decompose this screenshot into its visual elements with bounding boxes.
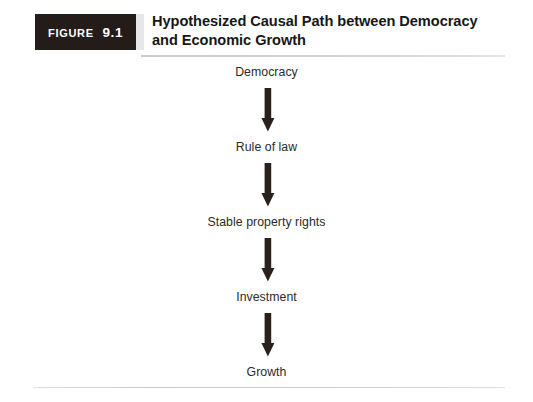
figure-badge-word: FIGURE [48, 27, 94, 39]
figure-title: Hypothesized Causal Path between Democra… [152, 12, 504, 49]
flow-node-label: Rule of law [236, 141, 297, 153]
flow-arrow-2 [0, 157, 533, 212]
header-divider [141, 55, 505, 57]
flow-node-label: Democracy [235, 66, 298, 78]
flow-arrow-1 [0, 82, 533, 137]
down-arrow-icon [259, 238, 277, 282]
down-arrow-icon [259, 88, 277, 132]
badge-separator [136, 14, 144, 50]
flow-node-democracy: Democracy [0, 62, 533, 82]
footer-divider [33, 387, 505, 388]
figure-page: FIGURE 9.1 Hypothesized Causal Path betw… [0, 0, 533, 402]
flow-node-investment: Investment [0, 287, 533, 307]
flow-node-rule-of-law: Rule of law [0, 137, 533, 157]
flow-node-label: Investment [236, 291, 297, 303]
down-arrow-icon [259, 163, 277, 207]
figure-number-badge-text: FIGURE 9.1 [48, 25, 123, 40]
flow-arrow-4 [0, 307, 533, 362]
flow-node-label: Growth [247, 366, 287, 378]
flow-node-label: Stable property rights [208, 216, 326, 228]
figure-number-badge: FIGURE 9.1 [35, 14, 136, 50]
causal-path-flowchart: Democracy Rule of law Stable property ri… [0, 62, 533, 382]
flow-node-stable-property-rights: Stable property rights [0, 212, 533, 232]
flow-node-growth: Growth [0, 362, 533, 382]
flow-arrow-3 [0, 232, 533, 287]
figure-badge-number: 9.1 [102, 25, 123, 40]
down-arrow-icon [259, 313, 277, 357]
